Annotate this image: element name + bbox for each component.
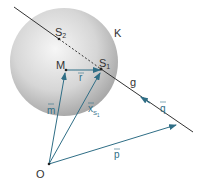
- diagram-canvas: S2 K M S1 g O r m xS1 q p: [0, 0, 202, 187]
- svg-text:q: q: [160, 103, 166, 114]
- label-vector-p: p: [114, 149, 120, 160]
- point-s2: [58, 38, 61, 41]
- svg-text:p: p: [114, 149, 120, 160]
- label-vector-m: m: [47, 104, 55, 116]
- label-m: M: [56, 59, 65, 71]
- label-o: O: [36, 168, 45, 180]
- svg-text:m: m: [47, 105, 55, 116]
- label-g: g: [130, 76, 136, 88]
- label-k: K: [114, 27, 122, 39]
- point-o: [48, 163, 51, 166]
- label-vector-q: q: [160, 102, 166, 114]
- vector-q: [141, 97, 150, 103]
